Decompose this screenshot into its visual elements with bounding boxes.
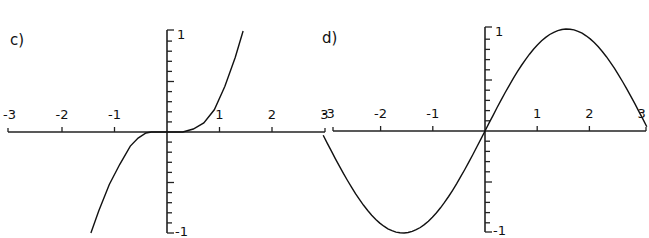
x-tick-label: 1 bbox=[533, 106, 541, 121]
x-tick-label: -1 bbox=[108, 107, 121, 122]
x-tick-label: -1 bbox=[426, 106, 439, 121]
y-tick-label-top: 1 bbox=[177, 27, 185, 42]
x-tick-label: 2 bbox=[585, 106, 593, 121]
panel-label: c) bbox=[10, 31, 24, 49]
panel-label: d) bbox=[322, 29, 337, 47]
x-tick-label: 1 bbox=[215, 107, 223, 122]
x-tick-label: -3 bbox=[3, 107, 16, 122]
y-tick-label-top: 1 bbox=[495, 24, 503, 39]
x-tick-label: -3 bbox=[322, 106, 335, 121]
y-tick-label-bottom: -1 bbox=[175, 224, 188, 238]
chart-figure: c)-3-2-11231-1d)-3-2-11231-1 bbox=[0, 0, 649, 238]
panel-c: c)-3-2-11231-1 bbox=[3, 27, 329, 238]
x-tick-label: 2 bbox=[268, 107, 276, 122]
x-tick-label: -2 bbox=[374, 106, 387, 121]
x-tick-label: 3 bbox=[637, 106, 645, 121]
panel-d: d)-3-2-11231-1 bbox=[322, 24, 647, 238]
x-tick-label: -2 bbox=[56, 107, 69, 122]
y-tick-label-bottom: -1 bbox=[493, 223, 506, 238]
